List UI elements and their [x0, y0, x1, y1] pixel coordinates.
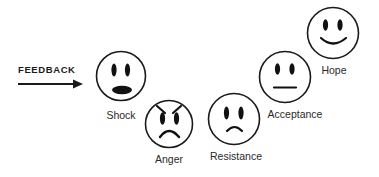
stage-label-resistance: Resistance: [210, 151, 262, 162]
acceptance-face-icon: [260, 52, 311, 103]
stage-label-acceptance: Acceptance: [268, 109, 323, 120]
resistance-face-icon: [209, 94, 260, 145]
feedback-label: FEEDBACK: [18, 65, 76, 75]
stage-label-shock: Shock: [106, 110, 135, 121]
right-arrow-icon: [18, 80, 83, 89]
feedback-emotion-diagram: FEEDBACK Shock Anger Resistance Acceptan…: [0, 0, 379, 177]
anger-face-icon: [146, 101, 193, 148]
stage-label-hope: Hope: [321, 65, 346, 76]
hope-face-icon: [308, 8, 359, 59]
stage-label-anger: Anger: [155, 154, 183, 165]
shock-face-icon: [97, 52, 146, 101]
